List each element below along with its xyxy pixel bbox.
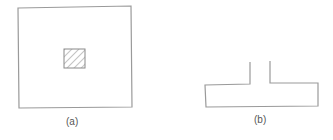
hatched-square: [64, 49, 85, 68]
panel-a: [18, 6, 132, 108]
panel-a-label: (a): [66, 116, 78, 127]
panel-b: [205, 61, 318, 107]
t-section-outline: [205, 61, 318, 107]
figure-canvas: [0, 0, 333, 140]
panel-b-label: (b): [254, 114, 266, 125]
